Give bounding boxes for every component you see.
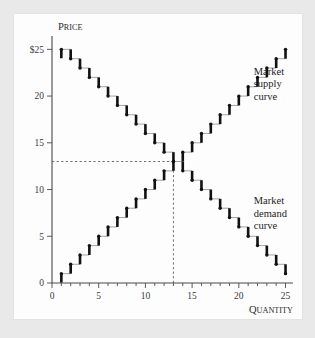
demand-curve-point — [256, 244, 259, 247]
y-axis-tick-label: 5 — [39, 232, 44, 242]
supply-curve-point — [218, 113, 221, 116]
demand-curve-point — [125, 113, 128, 116]
demand-curve-point — [200, 188, 203, 191]
supply-curve-point — [190, 141, 193, 144]
y-axis-title: PRICE — [58, 21, 83, 32]
demand-curve-point — [209, 197, 212, 200]
demand-curve-point — [274, 263, 277, 266]
demand-curve-point — [237, 225, 240, 228]
supply-curve-point — [246, 85, 249, 88]
y-axis-tick-label: 20 — [35, 91, 45, 101]
y-axis-tick-label: 0 — [39, 278, 44, 288]
y-axis-tick-label: $25 — [30, 45, 45, 55]
demand-curve-point — [116, 104, 119, 107]
demand-curve-point — [144, 132, 147, 135]
x-axis-tick-label: 10 — [141, 291, 151, 301]
demand-curve-point — [284, 272, 287, 275]
x-axis-tick-label: 5 — [96, 291, 101, 301]
supply-curve-label: Marketsupplycurve — [254, 66, 284, 102]
demand-curve-point — [88, 76, 91, 79]
chart-svg: 051015202505101520$25PRICEQUANTITYMarket… — [14, 14, 302, 319]
demand-curve-point — [69, 57, 72, 60]
supply-curve-point — [162, 169, 165, 172]
x-axis-tick-label: 20 — [234, 291, 244, 301]
supply-curve-point — [237, 94, 240, 97]
x-axis-tick-label: 15 — [187, 291, 197, 301]
supply-curve-point — [144, 188, 147, 191]
demand-curve-point — [172, 160, 175, 163]
demand-curve-point — [153, 141, 156, 144]
demand-curve-point — [228, 216, 231, 219]
demand-curve-point — [97, 85, 100, 88]
supply-curve-point — [88, 244, 91, 247]
supply-curve-point — [125, 207, 128, 210]
demand-curve-point — [162, 150, 165, 153]
x-axis-tick-label: 0 — [50, 291, 55, 301]
demand-curve-point — [60, 48, 63, 51]
demand-curve-point — [78, 66, 81, 69]
demand-curve-point — [134, 122, 137, 125]
demand-curve-point — [246, 235, 249, 238]
x-axis-title: QUANTITY — [249, 304, 293, 315]
supply-curve-point — [209, 122, 212, 125]
supply-curve-point — [116, 216, 119, 219]
chart-panel: 051015202505101520$25PRICEQUANTITYMarket… — [14, 14, 302, 319]
supply-curve-point — [200, 132, 203, 135]
supply-curve-point — [106, 225, 109, 228]
supply-curve-point — [228, 104, 231, 107]
y-axis-tick-label: 15 — [35, 138, 45, 148]
supply-curve-point — [60, 272, 63, 275]
supply-curve-point — [134, 197, 137, 200]
figure-background: 051015202505101520$25PRICEQUANTITYMarket… — [0, 0, 315, 338]
x-axis-tick-label: 25 — [281, 291, 291, 301]
y-axis-tick-label: 10 — [35, 185, 45, 195]
demand-curve-label: Marketdemandcurve — [254, 195, 288, 231]
demand-curve-point — [218, 207, 221, 210]
demand-curve-point — [106, 94, 109, 97]
demand-curve-point — [181, 169, 184, 172]
supply-curve-point — [97, 235, 100, 238]
supply-curve-point — [284, 48, 287, 51]
supply-curve-point — [274, 57, 277, 60]
supply-curve-point — [69, 263, 72, 266]
supply-curve-point — [181, 150, 184, 153]
demand-curve-point — [190, 178, 193, 181]
supply-curve-point — [153, 178, 156, 181]
supply-demand-chart: 051015202505101520$25PRICEQUANTITYMarket… — [14, 14, 302, 319]
supply-curve-point — [78, 253, 81, 256]
demand-curve-point — [265, 253, 268, 256]
